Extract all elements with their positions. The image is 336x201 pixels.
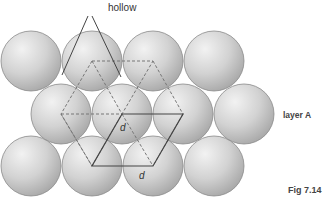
layer-a-label: layer A: [283, 110, 311, 120]
distance-label-d-1: d: [120, 122, 126, 133]
sphere: [214, 84, 274, 144]
figure-caption: Fig 7.14: [288, 185, 322, 195]
sphere: [184, 31, 244, 91]
hollow-label: hollow: [108, 2, 136, 13]
distance-label-d-2: d: [139, 170, 145, 181]
sphere: [1, 31, 61, 91]
sphere: [1, 136, 61, 196]
sphere: [184, 136, 244, 196]
close-packed-layer-diagram: [0, 0, 336, 201]
